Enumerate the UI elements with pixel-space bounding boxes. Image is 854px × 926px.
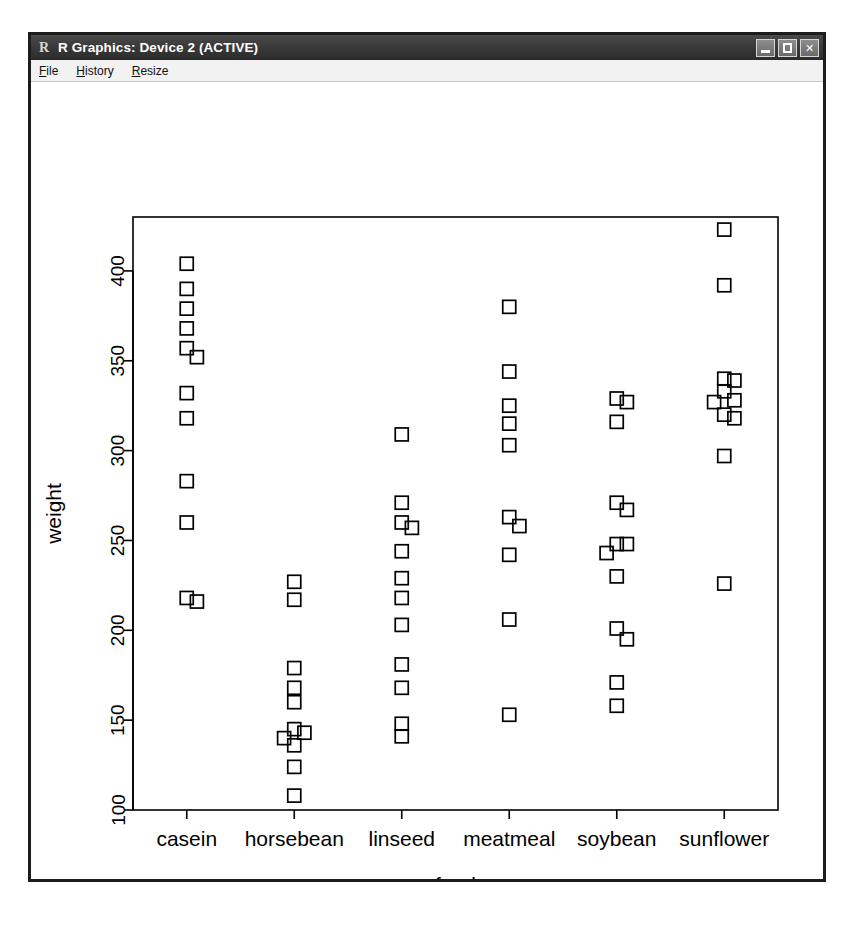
window-title: R Graphics: Device 2 (ACTIVE) [58, 40, 756, 55]
r-logo-icon: R [36, 40, 52, 56]
window-titlebar[interactable]: R R Graphics: Device 2 (ACTIVE) ✕ [31, 35, 823, 60]
menu-item-resize[interactable]: Resize [132, 64, 169, 78]
close-button[interactable]: ✕ [800, 39, 819, 57]
minimize-button[interactable] [756, 39, 775, 57]
maximize-icon [779, 40, 796, 56]
menu-item-history[interactable]: History [76, 64, 113, 78]
minimize-icon [757, 40, 774, 56]
y-axis-tick-label: 400 [108, 255, 129, 287]
x-axis-tick-label-soybean: soybean [577, 827, 656, 850]
y-axis-tick-label: 200 [108, 614, 129, 646]
close-icon: ✕ [801, 40, 818, 56]
y-axis-tick-label: 350 [108, 345, 129, 377]
plot-frame [133, 217, 778, 810]
menu-item-history-accel: H [76, 64, 85, 78]
x-axis-tick-label-casein: casein [156, 827, 217, 850]
y-axis-tick-label: 100 [108, 794, 129, 826]
x-axis-tick-label-horsebean: horsebean [245, 827, 344, 850]
r-graphics-window: R R Graphics: Device 2 (ACTIVE) ✕ File H… [28, 32, 826, 882]
stripchart-plot: 100150200250300350400weightcaseinhorsebe… [31, 83, 823, 879]
menu-item-resize-rest: esize [140, 64, 168, 78]
x-axis-tick-label-linseed: linseed [368, 827, 435, 850]
menubar: File History Resize [31, 60, 823, 82]
window-controls: ✕ [756, 39, 819, 57]
x-axis-tick-label-sunflower: sunflower [679, 827, 769, 850]
y-axis-title: weight [42, 483, 65, 545]
maximize-button[interactable] [778, 39, 797, 57]
menu-item-file[interactable]: File [39, 64, 58, 78]
x-axis-tick-label-meatmeal: meatmeal [463, 827, 555, 850]
screenshot-root: R R Graphics: Device 2 (ACTIVE) ✕ File H… [0, 0, 854, 926]
x-axis-title: feed [435, 873, 476, 879]
y-axis-tick-label: 300 [108, 435, 129, 467]
menu-item-history-rest: istory [85, 64, 114, 78]
y-axis-tick-label: 150 [108, 704, 129, 736]
y-axis-tick-label: 250 [108, 525, 129, 557]
menu-item-file-rest: ile [46, 64, 58, 78]
graphics-canvas: 100150200250300350400weightcaseinhorsebe… [31, 83, 823, 879]
